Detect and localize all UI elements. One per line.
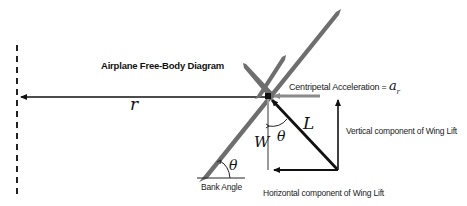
centripetal-acceleration-label: Centripetal Acceleration = ar — [289, 78, 400, 96]
pivot-point — [265, 93, 271, 99]
radius-label: r — [130, 94, 138, 114]
theta-arc-top — [268, 119, 287, 126]
vertical-component-label: Vertical component of Wing Lift — [346, 126, 457, 136]
horizontal-component-label: Horizontal component of Wing Lift — [263, 188, 384, 198]
weight-label: W — [254, 133, 269, 151]
bank-angle-label: Bank Angle — [201, 182, 242, 192]
theta-top-label: θ — [277, 128, 285, 144]
centripetal-label-text: Centripetal Acceleration = — [289, 82, 387, 92]
lift-label: L — [303, 113, 314, 133]
diagram-title: Airplane Free-Body Diagram — [101, 60, 224, 71]
diagram-title-text: Airplane Free-Body Diagram — [101, 60, 224, 71]
centripetal-symbol: ar — [389, 78, 400, 93]
theta-bank-label: θ — [229, 157, 237, 173]
free-body-diagram-canvas — [0, 0, 467, 206]
centripetal-subscript: r — [397, 88, 400, 96]
